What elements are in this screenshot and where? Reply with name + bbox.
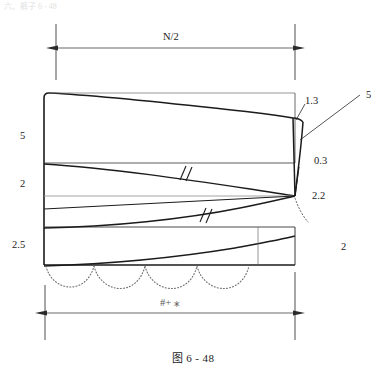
hip-seam-curve-lower: [44, 196, 295, 228]
tick-mark-1b: [186, 167, 192, 181]
dotted-scallop-group: [46, 266, 249, 289]
right-top-small-corner: [293, 118, 303, 122]
dimension-label-top: N/2: [163, 32, 179, 43]
right-short-dart-line: [295, 167, 299, 196]
bottom-panel-curve: [44, 236, 295, 266]
right-label-2-2: 2.2: [312, 191, 325, 202]
right-label-5: 5: [366, 90, 371, 101]
pattern-drawing: [0, 0, 386, 373]
dotted-crotch-curve: [295, 198, 308, 222]
scallop-4: [197, 266, 249, 289]
pattern-outline-group: [44, 93, 303, 266]
leader-1-3: [296, 104, 305, 120]
scallop-2: [94, 266, 145, 289]
right-label-1-3: 1.3: [305, 96, 318, 107]
scallop-1: [46, 266, 94, 287]
dimension-label-bottom: #+ ⁎: [160, 298, 180, 309]
right-label-0-3: 0.3: [314, 156, 327, 167]
tick-mark-2b: [206, 209, 212, 223]
top-left-round-corner: [44, 93, 49, 98]
left-label-5: 5: [20, 131, 25, 142]
left-label-2-5: 2.5: [12, 240, 25, 251]
hip-seam-curve-upper: [44, 164, 295, 196]
figure-6-48: 六、裤子 6 - 48: [0, 0, 386, 373]
converging-guide-line: [44, 196, 295, 209]
waistline-curve: [49, 93, 293, 118]
tick-mark-1a: [180, 166, 186, 180]
right-label-2: 2: [341, 242, 346, 253]
left-label-2: 2: [20, 179, 25, 190]
scallop-3: [145, 266, 197, 289]
figure-caption: 图 6 - 48: [0, 349, 386, 365]
